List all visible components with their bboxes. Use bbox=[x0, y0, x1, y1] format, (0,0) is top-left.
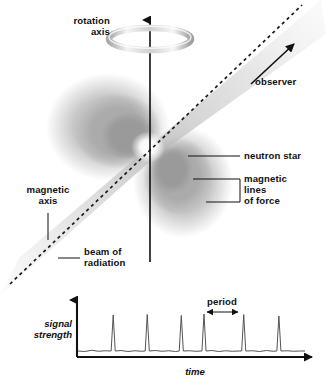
label-magnetic-lines-line1: magnetic bbox=[244, 173, 287, 184]
signal-graph: period signal strength time bbox=[34, 296, 312, 377]
label-beam-radiation-line1: beam of bbox=[84, 246, 122, 257]
label-observer: observer bbox=[255, 76, 296, 87]
label-magnetic-lines-line2: lines bbox=[244, 184, 266, 195]
label-period: period bbox=[207, 296, 237, 307]
label-magnetic-lines-line3: of force bbox=[244, 195, 280, 206]
label-time: time bbox=[185, 366, 205, 377]
pulsar-diagram-figure: rotation axis observer neutron star magn… bbox=[0, 0, 326, 384]
label-rotation-axis-line2: axis bbox=[91, 26, 110, 37]
label-signal-strength-line1: signal bbox=[44, 318, 72, 329]
signal-pulse-trace bbox=[78, 314, 305, 352]
label-magnetic-axis-line2: axis bbox=[38, 195, 57, 206]
label-rotation-axis-line1: rotation bbox=[73, 15, 110, 26]
label-beam-radiation-line2: radiation bbox=[84, 257, 125, 268]
neutron-star-core bbox=[131, 131, 165, 163]
label-magnetic-axis-line1: magnetic bbox=[27, 184, 70, 195]
period-annotation: period bbox=[207, 296, 238, 312]
diagram-canvas: rotation axis observer neutron star magn… bbox=[0, 0, 326, 384]
label-neutron-star: neutron star bbox=[244, 150, 301, 161]
label-signal-strength-line2: strength bbox=[34, 329, 73, 340]
